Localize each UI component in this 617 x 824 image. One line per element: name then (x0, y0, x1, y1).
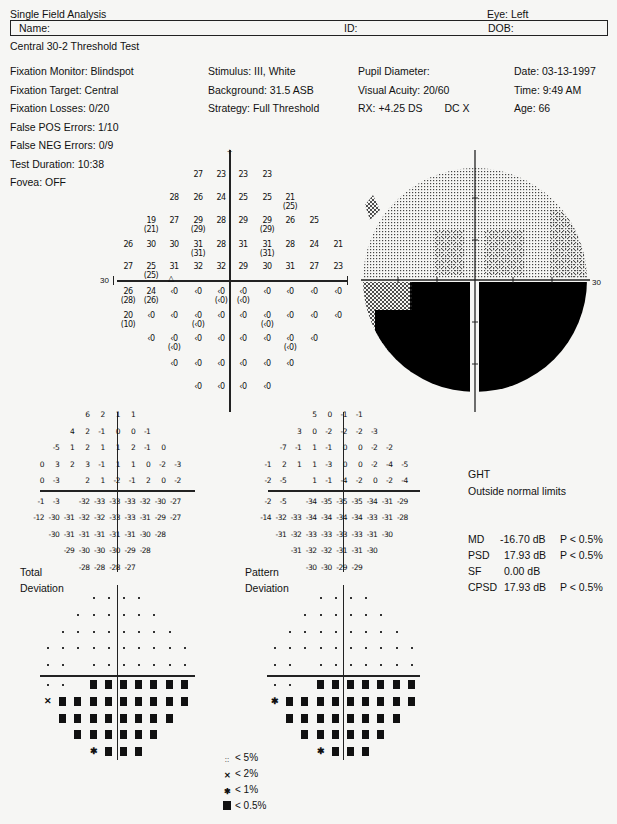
name-label: Name: (19, 22, 50, 34)
normal-dot-icon (274, 664, 276, 666)
visual-acuity: Visual Acuity: 20/60 (358, 81, 470, 100)
threshold-value: ‹0 (303, 311, 325, 320)
deviation-value: -34 (301, 497, 317, 506)
normal-dot-icon (62, 647, 64, 649)
deviation-value: 0 (134, 460, 150, 469)
deviation-value: -2 (255, 497, 271, 506)
deviation-value: 0 (150, 476, 166, 485)
report-title: Single Field Analysis (10, 8, 106, 20)
solid-square-icon (223, 801, 231, 810)
deviation-value: -34 (301, 513, 317, 522)
deviation-value: 0 (119, 427, 135, 436)
solid-square-icon (105, 730, 112, 739)
dc: DC X (445, 102, 470, 114)
solid-square-icon (393, 697, 400, 706)
pd-horizontal-axis (268, 490, 420, 492)
normal-dot-icon (350, 664, 352, 666)
threshold-value: 31 (163, 262, 185, 271)
normal-dot-icon (289, 647, 291, 649)
deviation-value: -5 (43, 443, 59, 452)
tdp-vertical-axis (117, 585, 118, 760)
false-neg-errors: False NEG Errors: 0/9 (10, 136, 134, 155)
normal-dot-icon (123, 647, 125, 649)
deviation-value: -5 (392, 460, 408, 469)
age: Age: 66 (514, 99, 596, 118)
deviation-value: -4 (331, 476, 347, 485)
threshold-value: 27 (303, 262, 325, 271)
patient-box: Name: ID: DOB: (10, 20, 608, 36)
normal-dot-icon (77, 647, 79, 649)
threshold-value: 25 (232, 193, 254, 202)
deviation-value: -3 (43, 497, 59, 506)
normal-dot-icon (350, 597, 352, 599)
normal-dot-icon (153, 647, 155, 649)
deviation-value: -31 (377, 497, 393, 506)
deviation-value: 3 (74, 460, 90, 469)
solid-square-icon (332, 680, 339, 689)
threshold-value: ‹0 (163, 287, 185, 296)
deviation-value: -31 (119, 530, 135, 539)
normal-dot-icon (274, 647, 276, 649)
threshold-value: 24(26) (140, 287, 162, 305)
deviation-value: -14 (255, 513, 271, 522)
deviation-value: 1 (119, 460, 135, 469)
ght-title: GHT (468, 468, 490, 480)
threshold-value: 31 (279, 262, 301, 271)
legend-05pct: < 0.5% (223, 798, 266, 814)
solid-square-icon (347, 714, 354, 723)
normal-dot-icon (335, 647, 337, 649)
normal-dot-icon (365, 631, 367, 633)
solid-square-icon (347, 747, 354, 756)
deviation-value: 1 (58, 443, 74, 452)
deviation-value: -2 (255, 476, 271, 485)
solid-square-icon (408, 680, 415, 689)
deviation-value: -34 (346, 513, 362, 522)
normal-dot-icon (62, 664, 64, 666)
deviation-value: -33 (331, 530, 347, 539)
solid-square-icon (301, 714, 308, 723)
deviation-value: -30 (361, 546, 377, 555)
normal-dot-icon (169, 631, 171, 633)
deviation-value: 1 (104, 410, 120, 419)
solid-square-icon (317, 680, 324, 689)
normal-dot-icon (47, 684, 49, 686)
normal-dot-icon (123, 614, 125, 616)
pattern-label: Pattern (245, 566, 279, 578)
solid-square-icon (286, 714, 293, 723)
deviation-value: 2 (58, 460, 74, 469)
normal-dot-icon (396, 631, 398, 633)
deviation-value: 5 (301, 410, 317, 419)
normal-dot-icon (108, 597, 110, 599)
normal-dot-icon (335, 631, 337, 633)
deviation-value: 1 (89, 476, 105, 485)
threshold-value: 31(31) (187, 240, 209, 258)
pattern-deviation-label: Deviation (245, 582, 289, 594)
deviation-value: -27 (165, 497, 181, 506)
deviation-value: 2 (134, 476, 150, 485)
deviation-value: 2 (74, 427, 90, 436)
deviation-value: 0 (331, 443, 347, 452)
threshold-value: 26 (117, 240, 139, 249)
normal-dot-icon (335, 614, 337, 616)
deviation-value: -32 (270, 513, 286, 522)
solid-square-icon (105, 747, 112, 756)
deviation-value: 0 (346, 460, 362, 469)
deviation-value: -1 (89, 427, 105, 436)
threshold-value: ‹0 (232, 359, 254, 368)
normal-dot-icon (380, 614, 382, 616)
deviation-value: -31 (331, 546, 347, 555)
threshold-horizontal-axis (117, 280, 348, 282)
deviation-value: -35 (346, 497, 362, 506)
deviation-value: -28 (134, 546, 150, 555)
normal-dot-icon (396, 647, 398, 649)
threshold-value: ‹0 (232, 382, 254, 391)
solid-square-icon (347, 680, 354, 689)
threshold-value: 27 (163, 216, 185, 225)
normal-dot-icon (380, 647, 382, 649)
deviation-value: 3 (43, 460, 59, 469)
normal-dot-icon (380, 631, 382, 633)
threshold-value: 28 (163, 193, 185, 202)
deviation-value: -33 (119, 513, 135, 522)
threshold-value: 23 (232, 170, 254, 179)
threshold-value: 21 (327, 240, 349, 249)
